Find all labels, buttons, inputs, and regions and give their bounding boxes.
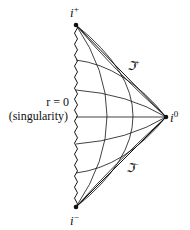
future-null-infinity-edge <box>76 25 166 117</box>
constant-t-curve-1 <box>76 60 166 117</box>
singularity-wavy-line <box>75 25 78 207</box>
past-timelike-infinity-dot <box>74 205 79 210</box>
spatial-infinity-dot <box>164 115 169 120</box>
scri-minus-label: ℑ− <box>126 160 139 175</box>
penrose-diagram: i+ i0 i− ℑ+ ℑ− r = 0 (singularity) <box>0 0 190 230</box>
constant-t-curve-4 <box>76 117 166 173</box>
future-timelike-infinity-dot <box>74 23 79 28</box>
singularity-label-text: (singularity) <box>9 109 68 123</box>
i-minus-label: i− <box>70 212 79 228</box>
past-null-infinity-edge <box>76 117 166 207</box>
i-zero-label: i0 <box>170 109 179 125</box>
i-plus-label: i+ <box>70 4 79 20</box>
constant-r-curve-outer <box>76 25 133 207</box>
scri-plus-label: ℑ+ <box>127 58 140 73</box>
singularity-label-r0: r = 0 <box>46 95 69 109</box>
